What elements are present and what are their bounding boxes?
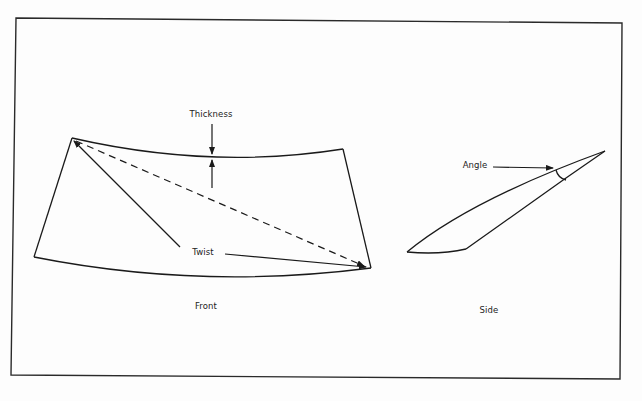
- twist-arrow-to-bottom-right: [225, 254, 366, 267]
- figure-frame: [11, 18, 622, 379]
- twist-dashed-diagonal: [76, 141, 364, 266]
- twist-arrow-to-top-left: [74, 141, 180, 247]
- side-blade-upper-edge: [407, 151, 605, 252]
- blade-diagram: [0, 0, 642, 401]
- front-blade-left-edge: [34, 138, 72, 257]
- angle-label: Angle: [463, 160, 488, 170]
- thickness-label: Thickness: [190, 109, 233, 119]
- angle-arrow: [493, 167, 553, 168]
- front-blade-top-edge: [72, 138, 343, 157]
- side-blade-bottom-edge: [407, 249, 466, 253]
- side-view-blade: [407, 151, 605, 253]
- front-blade-bottom-edge: [34, 257, 371, 277]
- twist-arrows: [74, 141, 366, 267]
- side-view-label: Side: [480, 305, 499, 315]
- front-view-label: Front: [195, 301, 217, 311]
- twist-label: Twist: [192, 247, 213, 257]
- front-blade-right-edge: [343, 149, 371, 268]
